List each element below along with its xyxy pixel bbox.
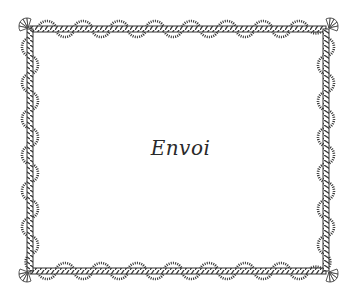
page-title: Envoi	[0, 136, 361, 160]
bottom-rope	[30, 268, 326, 274]
top-rope	[30, 26, 326, 32]
